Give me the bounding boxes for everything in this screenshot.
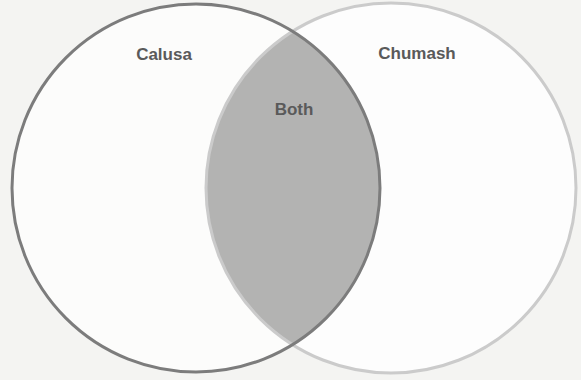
both-label: Both [275, 100, 314, 119]
venn-diagram: Calusa Chumash Both [0, 0, 581, 380]
chumash-label: Chumash [378, 44, 455, 63]
calusa-label: Calusa [136, 45, 192, 64]
